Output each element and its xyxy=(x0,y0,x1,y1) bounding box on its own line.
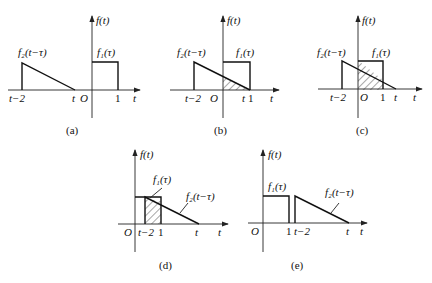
panel-b: f(t) f₁(τ) f₂(t−τ) t−2 O t 1 t (b) xyxy=(170,14,279,137)
caption-a: (a) xyxy=(66,124,79,137)
tick-1: 1 xyxy=(248,92,254,104)
tick-t: t xyxy=(242,92,246,104)
tick-t: t xyxy=(72,92,76,104)
tick-origin: O xyxy=(124,226,132,238)
tick-t: t xyxy=(346,225,350,237)
overlap-hatch xyxy=(145,199,161,224)
panel-d: f(t) f₁(τ) f₂(t−τ) O t−2 1 t t (d) xyxy=(118,148,228,272)
tick-1: 1 xyxy=(115,92,121,104)
f2-label: f₂(t−τ) xyxy=(317,46,346,59)
tick-1: 1 xyxy=(158,226,164,238)
f1-label: f₁(τ) xyxy=(372,46,390,59)
y-axis-label: f(t) xyxy=(96,14,110,27)
convolution-figure: f(t) f₁(τ) f₂(t−τ) t−2 t O 1 t (a) f(t) … xyxy=(0,0,432,283)
x-axis-label: t xyxy=(218,226,222,238)
tick-1: 1 xyxy=(286,225,292,237)
tick-t-minus-2: t−2 xyxy=(294,225,310,237)
caption-b: (b) xyxy=(214,124,227,137)
f2-shifted-triangle xyxy=(22,63,75,90)
y-axis-label: f(t) xyxy=(227,14,241,27)
tick-t-minus-2: t−2 xyxy=(138,226,154,238)
tick-origin: O xyxy=(210,92,218,104)
panel-e: f(t) f₁(τ) f₂(t−τ) O 1 t−2 t t (e) xyxy=(248,148,367,272)
f1-label: f₁(τ) xyxy=(153,173,171,186)
tick-origin: O xyxy=(360,91,368,103)
tick-origin: O xyxy=(251,225,259,237)
tick-origin: O xyxy=(80,92,88,104)
f1-rectangle xyxy=(263,196,289,223)
y-axis-label: f(t) xyxy=(268,148,282,161)
tick-t-minus-2: t−2 xyxy=(9,92,25,104)
f2-label: f₂(t−τ) xyxy=(325,186,354,199)
tick-t-minus-2: t−2 xyxy=(330,91,346,103)
f1-label: f₁(τ) xyxy=(97,46,115,59)
tick-1: 1 xyxy=(380,91,386,103)
y-axis-label: f(t) xyxy=(140,148,154,161)
x-axis-label: t xyxy=(270,92,274,104)
f2-leader xyxy=(180,203,188,213)
f2-shifted-triangle xyxy=(295,196,349,223)
f2-leader xyxy=(331,203,339,213)
caption-c: (c) xyxy=(356,124,369,137)
f1-label: f₁(τ) xyxy=(236,46,254,59)
x-axis-label: t xyxy=(360,225,364,237)
caption-e: (e) xyxy=(291,259,304,272)
x-axis-label: t xyxy=(413,91,417,103)
f2-label: f₂(t−τ) xyxy=(186,190,215,203)
x-axis-label: t xyxy=(133,92,137,104)
panel-a: f(t) f₁(τ) f₂(t−τ) t−2 t O 1 t (a) xyxy=(8,14,140,137)
f1-label: f₁(τ) xyxy=(268,180,286,193)
f2-shifted-triangle xyxy=(194,62,250,90)
caption-d: (d) xyxy=(159,259,172,272)
tick-t: t xyxy=(394,91,398,103)
f2-label: f₂(t−τ) xyxy=(177,46,206,59)
f2-label: f₂(t−τ) xyxy=(18,46,47,59)
f1-rectangle xyxy=(92,62,118,90)
tick-t-minus-2: t−2 xyxy=(185,92,201,104)
tick-t: t xyxy=(195,226,199,238)
y-axis-label: f(t) xyxy=(362,14,376,27)
panel-c: f(t) f₁(τ) f₂(t−τ) t−2 O 1 t t (c) xyxy=(317,14,422,137)
